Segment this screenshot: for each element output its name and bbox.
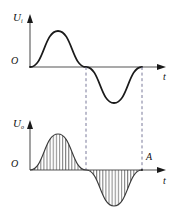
point-a-marker	[141, 169, 143, 171]
input-voltage-label-text: U	[13, 11, 21, 23]
origin-label-bottom: O	[11, 159, 18, 169]
time-axis-label-bottom: t	[163, 176, 166, 186]
output-y-axis	[27, 120, 33, 170]
input-x-axis	[30, 64, 166, 70]
origin-label-top: O	[11, 56, 18, 66]
waveform-figure: Ui Uo O O t t A	[0, 0, 177, 209]
output-negative-hatch	[85, 168, 145, 209]
zero-crossing-connectors	[86, 67, 142, 170]
output-voltage-label-subscript: o	[21, 124, 24, 130]
output-voltage-plot	[27, 120, 166, 209]
time-axis-label-top: t	[163, 72, 166, 82]
output-voltage-label-text: U	[13, 117, 21, 129]
point-a-label: A	[146, 152, 152, 162]
input-voltage-label-subscript: i	[21, 18, 23, 24]
input-y-axis	[27, 14, 33, 67]
input-voltage-plot	[27, 14, 166, 103]
input-voltage-label: Ui	[13, 12, 23, 23]
output-voltage-label: Uo	[13, 118, 24, 129]
waveform-svg	[0, 0, 177, 209]
